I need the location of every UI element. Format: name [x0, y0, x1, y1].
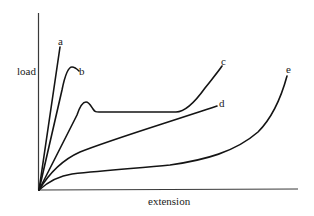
x-axis: [39, 189, 299, 190]
load-extension-diagram: load extension a b c d e: [0, 0, 314, 216]
curve-d: [39, 106, 217, 190]
curve-label-a: a: [58, 35, 63, 47]
curve-label-d: d: [219, 97, 225, 109]
curve-b: [39, 67, 79, 190]
curve-e: [39, 76, 287, 190]
curve-label-e: e: [286, 63, 291, 75]
x-axis-label: extension: [148, 195, 191, 207]
curve-c: [39, 66, 222, 190]
y-axis-label: load: [17, 65, 36, 77]
diagram-canvas: load extension a b c d e: [0, 0, 314, 216]
curve-label-c: c: [221, 55, 226, 67]
curve-label-b: b: [79, 65, 85, 77]
